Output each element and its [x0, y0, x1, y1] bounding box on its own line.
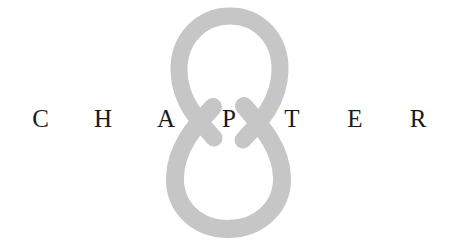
- chapter-letter-h: H: [72, 105, 135, 133]
- chapter-letter-c: C: [10, 105, 72, 133]
- chapter-letter-t: T: [261, 105, 324, 133]
- chapter-word: C H A P T E R: [0, 103, 459, 135]
- chapter-letter-a: A: [135, 105, 198, 133]
- chapter-letter-r: R: [387, 105, 450, 133]
- chapter-letter-p: P: [198, 105, 261, 133]
- chapter-opener: C H A P T E R: [0, 0, 459, 247]
- chapter-letter-e: E: [324, 105, 387, 133]
